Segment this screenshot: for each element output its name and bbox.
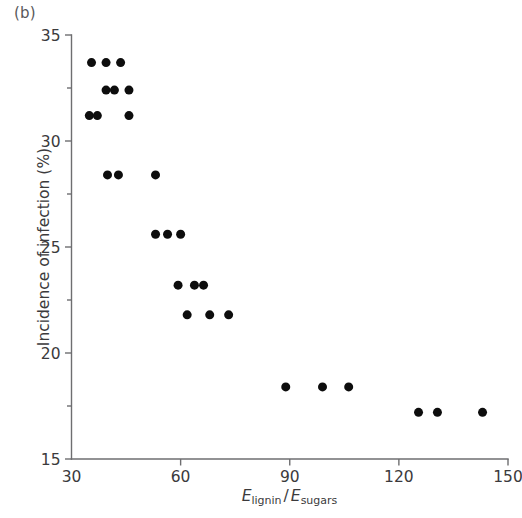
scatter-plot: 1520253035306090120150: [0, 0, 522, 518]
y-tick-label: 20: [41, 345, 61, 363]
data-point: [87, 58, 96, 67]
y-tick-label: 15: [41, 451, 61, 469]
data-point: [433, 408, 442, 417]
data-point: [114, 170, 123, 179]
data-point: [116, 58, 125, 67]
figure-panel-b: (b) Incidence of infection (%) Elignin/E…: [0, 0, 522, 518]
x-tick-label: 60: [171, 468, 191, 486]
x-tick-label: 30: [62, 468, 82, 486]
data-point: [93, 111, 102, 120]
data-point: [151, 170, 160, 179]
data-point: [124, 111, 133, 120]
y-tick-label: 25: [41, 239, 61, 257]
axis-ticks: [65, 35, 508, 466]
axes: [72, 35, 509, 459]
data-point: [174, 281, 183, 290]
data-point: [281, 382, 290, 391]
data-point: [224, 310, 233, 319]
data-point: [190, 281, 199, 290]
x-tick-label: 90: [280, 468, 300, 486]
x-tick-label: 120: [384, 468, 414, 486]
data-point: [85, 111, 94, 120]
data-point: [103, 170, 112, 179]
data-point: [344, 382, 353, 391]
data-point: [183, 310, 192, 319]
data-point: [110, 86, 119, 95]
data-point: [124, 86, 133, 95]
data-point: [176, 230, 185, 239]
data-point: [414, 408, 423, 417]
y-tick-label: 30: [41, 133, 61, 151]
axis-tick-labels: 1520253035306090120150: [41, 27, 522, 487]
data-point: [151, 230, 160, 239]
data-point: [163, 230, 172, 239]
y-tick-label: 35: [41, 27, 61, 45]
data-points: [85, 58, 487, 417]
data-point: [205, 310, 214, 319]
data-point: [102, 86, 111, 95]
data-point: [318, 382, 327, 391]
data-point: [199, 281, 208, 290]
x-tick-label: 150: [493, 468, 522, 486]
data-point: [102, 58, 111, 67]
data-point: [478, 408, 487, 417]
